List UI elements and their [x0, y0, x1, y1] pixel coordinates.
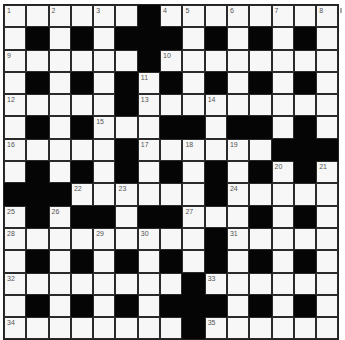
crossword-cell[interactable] [272, 295, 294, 317]
crossword-cell[interactable] [227, 27, 249, 49]
crossword-cell[interactable] [49, 72, 71, 94]
crossword-cell[interactable] [93, 295, 115, 317]
crossword-cell[interactable]: 24 [227, 183, 249, 205]
crossword-cell[interactable]: 35 [205, 317, 227, 339]
crossword-cell[interactable] [71, 228, 93, 250]
crossword-cell[interactable]: 2 [49, 5, 71, 27]
crossword-cell[interactable] [71, 50, 93, 72]
crossword-cell[interactable] [4, 161, 26, 183]
crossword-cell[interactable]: 21 [316, 161, 338, 183]
crossword-cell[interactable] [249, 228, 271, 250]
crossword-cell[interactable] [160, 94, 182, 116]
crossword-cell[interactable] [316, 250, 338, 272]
crossword-cell[interactable] [205, 5, 227, 27]
crossword-cell[interactable] [49, 139, 71, 161]
crossword-cell[interactable] [49, 116, 71, 138]
crossword-cell[interactable] [316, 94, 338, 116]
crossword-cell[interactable]: 1 [4, 5, 26, 27]
crossword-cell[interactable] [316, 206, 338, 228]
crossword-cell[interactable] [294, 228, 316, 250]
crossword-cell[interactable]: 20 [272, 161, 294, 183]
crossword-cell[interactable] [26, 5, 48, 27]
crossword-cell[interactable] [93, 27, 115, 49]
crossword-cell[interactable] [294, 94, 316, 116]
crossword-cell[interactable] [160, 228, 182, 250]
crossword-cell[interactable] [138, 250, 160, 272]
crossword-cell[interactable] [4, 72, 26, 94]
crossword-cell[interactable]: 25 [4, 206, 26, 228]
crossword-cell[interactable] [49, 161, 71, 183]
crossword-cell[interactable] [227, 72, 249, 94]
crossword-cell[interactable]: 3 [93, 5, 115, 27]
crossword-cell[interactable] [49, 295, 71, 317]
crossword-cell[interactable] [49, 273, 71, 295]
crossword-cell[interactable] [227, 206, 249, 228]
crossword-cell[interactable] [93, 273, 115, 295]
crossword-cell[interactable] [115, 273, 137, 295]
crossword-cell[interactable] [294, 50, 316, 72]
crossword-cell[interactable] [115, 317, 137, 339]
crossword-cell[interactable]: 13 [138, 94, 160, 116]
crossword-cell[interactable] [138, 317, 160, 339]
crossword-cell[interactable]: 5 [182, 5, 204, 27]
crossword-cell[interactable] [316, 116, 338, 138]
crossword-cell[interactable] [160, 183, 182, 205]
crossword-cell[interactable] [227, 295, 249, 317]
crossword-cell[interactable] [49, 317, 71, 339]
crossword-cell[interactable]: 33 [205, 273, 227, 295]
crossword-cell[interactable] [26, 317, 48, 339]
crossword-cell[interactable] [138, 183, 160, 205]
crossword-cell[interactable]: 22 [71, 183, 93, 205]
crossword-cell[interactable] [316, 295, 338, 317]
crossword-cell[interactable] [160, 139, 182, 161]
crossword-cell[interactable] [249, 5, 271, 27]
crossword-cell[interactable] [316, 228, 338, 250]
crossword-cell[interactable] [138, 295, 160, 317]
crossword-cell[interactable] [71, 273, 93, 295]
crossword-cell[interactable]: 23 [115, 183, 137, 205]
crossword-cell[interactable] [182, 183, 204, 205]
crossword-cell[interactable] [205, 139, 227, 161]
crossword-cell[interactable] [249, 94, 271, 116]
crossword-cell[interactable] [93, 317, 115, 339]
crossword-cell[interactable]: 9 [4, 50, 26, 72]
crossword-cell[interactable] [115, 5, 137, 27]
crossword-cell[interactable] [294, 183, 316, 205]
crossword-cell[interactable]: 26 [49, 206, 71, 228]
crossword-cell[interactable] [182, 94, 204, 116]
crossword-cell[interactable] [182, 228, 204, 250]
crossword-cell[interactable] [71, 5, 93, 27]
crossword-cell[interactable] [49, 250, 71, 272]
crossword-cell[interactable] [227, 317, 249, 339]
crossword-cell[interactable] [71, 94, 93, 116]
crossword-cell[interactable] [316, 183, 338, 205]
crossword-cell[interactable] [272, 116, 294, 138]
crossword-cell[interactable] [316, 273, 338, 295]
crossword-cell[interactable] [316, 72, 338, 94]
crossword-cell[interactable] [272, 183, 294, 205]
crossword-cell[interactable] [249, 50, 271, 72]
crossword-cell[interactable] [115, 206, 137, 228]
crossword-cell[interactable]: 32 [4, 273, 26, 295]
crossword-cell[interactable] [4, 27, 26, 49]
crossword-cell[interactable]: 7 [272, 5, 294, 27]
crossword-cell[interactable]: 28 [4, 228, 26, 250]
crossword-cell[interactable] [182, 50, 204, 72]
crossword-cell[interactable] [249, 273, 271, 295]
crossword-cell[interactable]: 29 [93, 228, 115, 250]
crossword-cell[interactable] [93, 139, 115, 161]
crossword-cell[interactable] [294, 5, 316, 27]
crossword-cell[interactable] [227, 94, 249, 116]
crossword-cell[interactable] [182, 250, 204, 272]
crossword-cell[interactable]: 17 [138, 139, 160, 161]
crossword-cell[interactable]: 14 [205, 94, 227, 116]
crossword-cell[interactable] [182, 72, 204, 94]
crossword-cell[interactable]: 4 [160, 5, 182, 27]
crossword-cell[interactable] [205, 116, 227, 138]
crossword-cell[interactable] [115, 50, 137, 72]
crossword-cell[interactable] [138, 116, 160, 138]
crossword-cell[interactable]: 6 [227, 5, 249, 27]
crossword-cell[interactable] [227, 161, 249, 183]
crossword-cell[interactable] [272, 206, 294, 228]
crossword-cell[interactable]: 16 [4, 139, 26, 161]
